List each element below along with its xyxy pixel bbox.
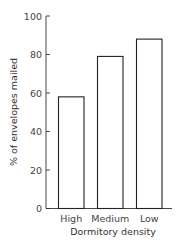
y-tick-label: 20 <box>30 165 42 176</box>
y-tick-label: 80 <box>30 49 42 60</box>
y-tick-label: 100 <box>24 11 42 22</box>
y-tick-label: 40 <box>30 126 42 137</box>
y-tick-label: 0 <box>36 203 42 214</box>
y-axis-title: % of envelopes mailed <box>8 58 19 166</box>
bar-high <box>59 97 85 209</box>
bar-medium <box>98 56 124 208</box>
bars <box>59 39 163 208</box>
y-axis: 020406080100 <box>24 11 50 215</box>
y-tick-label: 60 <box>30 88 42 99</box>
x-axis-title: Dormitory density <box>70 226 156 237</box>
x-tick-label: High <box>60 213 82 224</box>
x-tick-label: Medium <box>91 213 129 224</box>
x-tick-label: Low <box>140 213 159 224</box>
bar-chart: 020406080100 HighMediumLow % of envelope… <box>0 0 187 249</box>
x-axis: HighMediumLow <box>46 209 172 225</box>
bar-low <box>137 39 163 208</box>
